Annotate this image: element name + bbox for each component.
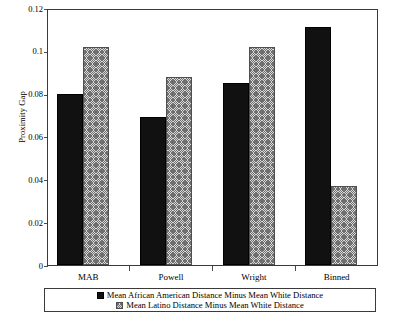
- legend-label-latino: Mean Latino Distance Minus Mean White Di…: [126, 301, 303, 310]
- x-axis-tick-labels: MAB Powell Wright Binned: [47, 271, 378, 285]
- bar-Binned-african-american: [305, 27, 331, 265]
- bar-Binned-latino: [331, 186, 357, 265]
- bar-MAB-latino: [83, 47, 109, 265]
- bar-Powell-latino: [166, 77, 192, 265]
- y-tick-label-0.04: 0.04: [17, 176, 43, 185]
- bar-Wright-latino: [249, 47, 275, 265]
- bar-MAB-african-american: [57, 94, 83, 265]
- bar-Powell-african-american: [140, 117, 166, 265]
- bars-container: [48, 10, 377, 265]
- x-tick-label-MAB: MAB: [47, 271, 130, 283]
- chart-legend: Mean African American Distance Minus Mea…: [44, 288, 376, 312]
- y-tick-label-0.12: 0.12: [17, 5, 43, 14]
- x-tick-label-Binned: Binned: [295, 271, 378, 283]
- bar-Wright-african-american: [223, 83, 249, 265]
- bar-group-Binned: [296, 10, 379, 265]
- legend-label-african-american: Mean African American Distance Minus Mea…: [107, 291, 323, 300]
- bar-group-MAB: [48, 10, 131, 265]
- x-tick-label-Wright: Wright: [213, 271, 296, 283]
- y-tick-label-0.02: 0.02: [17, 219, 43, 228]
- legend-entry-latino: Mean Latino Distance Minus Mean White Di…: [45, 300, 375, 311]
- y-tick-label-0: 0: [17, 262, 43, 271]
- plot-area: [47, 9, 378, 266]
- y-tick-label-0.1: 0.1: [17, 47, 43, 56]
- y-tick-label-0.08: 0.08: [17, 90, 43, 99]
- bar-chart-figure: Proximity Gap 0.12 0.1 0.08 0.06 0.04 0.…: [0, 0, 396, 317]
- x-tick-label-Powell: Powell: [130, 271, 213, 283]
- legend-swatch-hatched-icon: [116, 302, 123, 309]
- bar-group-Powell: [131, 10, 214, 265]
- y-tick-label-0.06: 0.06: [17, 133, 43, 142]
- bar-group-Wright: [214, 10, 297, 265]
- legend-swatch-solid-black-icon: [97, 292, 104, 299]
- y-axis-tick-labels: 0.12 0.1 0.08 0.06 0.04 0.02 0: [14, 0, 43, 290]
